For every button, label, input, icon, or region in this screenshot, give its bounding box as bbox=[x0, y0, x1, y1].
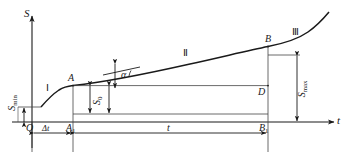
s-max-sub: max bbox=[301, 81, 308, 93]
s-zero-base: S bbox=[91, 100, 102, 105]
point-b1-label: B1 bbox=[259, 123, 269, 135]
origin-label: O bbox=[26, 123, 33, 133]
s-zero-sub: 0 bbox=[96, 97, 103, 100]
s-min-sub: min bbox=[11, 95, 18, 106]
point-a-label: A bbox=[68, 73, 74, 83]
settlement-time-diagram: S t O Ⅰ Ⅱ Ⅲ A B D A1 B1 Smin Smax S0 Δt … bbox=[0, 0, 351, 162]
x-axis-label: t bbox=[337, 115, 340, 126]
settlement-curve bbox=[41, 12, 329, 107]
stage-2-label: Ⅱ bbox=[183, 48, 188, 58]
point-a1-label: A1 bbox=[66, 123, 76, 135]
s-min-label: Smin bbox=[7, 81, 19, 125]
point-b1-sub: 1 bbox=[265, 127, 268, 134]
s-min-base: S bbox=[6, 106, 17, 111]
s-max-base: S bbox=[296, 92, 307, 97]
point-d-label: D bbox=[258, 87, 265, 97]
stage-1-label: Ⅰ bbox=[46, 83, 49, 93]
s-max-label: Smax bbox=[297, 65, 309, 113]
point-b-label: B bbox=[265, 34, 271, 44]
guide-lines bbox=[18, 47, 300, 153]
point-a1-sub: 1 bbox=[72, 127, 75, 134]
point-markers bbox=[72, 46, 269, 87]
stage-3-label: Ⅲ bbox=[292, 27, 299, 37]
alpha-label: α bbox=[121, 70, 126, 80]
delta-t-label: Δt bbox=[42, 124, 49, 133]
s-zero-label: S0 bbox=[92, 83, 104, 119]
y-axis-label: S bbox=[24, 8, 30, 19]
t-span-label: t bbox=[167, 123, 170, 133]
